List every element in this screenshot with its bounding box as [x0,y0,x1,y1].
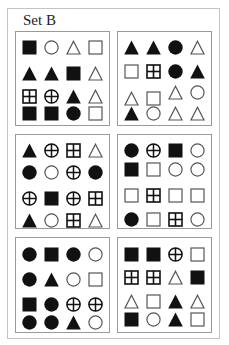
square-with-cross-icon [146,270,161,285]
filled-triangle-icon [168,312,183,327]
open-triangle-icon [66,40,81,55]
filled-square-icon [168,143,183,158]
open-triangle-icon [190,294,205,309]
filled-circle-icon [66,247,81,262]
filled-square-icon [190,270,205,285]
open-circle-icon [66,272,81,287]
open-square-icon [88,272,103,287]
open-triangle-icon [88,213,103,228]
circle-with-cross-icon [66,297,81,312]
circle-with-cross-icon [66,165,81,180]
open-triangle-icon [168,270,183,285]
filled-square-icon [22,297,37,312]
filled-circle-icon [22,247,37,262]
filled-circle-icon [124,143,139,158]
open-triangle-icon [190,106,205,121]
circle-with-cross-icon [66,191,81,206]
filled-circle-icon [168,64,183,79]
panel-2 [117,31,212,126]
open-square-icon [124,64,139,79]
open-triangle-icon [124,294,139,309]
open-square-icon [190,188,205,203]
filled-triangle-icon [66,89,81,104]
filled-square-icon [44,247,59,262]
open-circle-icon [44,165,59,180]
open-triangle-icon [168,85,183,100]
filled-circle-icon [22,272,37,287]
open-square-icon [190,247,205,262]
open-square-icon [190,312,205,327]
square-with-cross-icon [88,191,103,206]
filled-square-icon [146,247,161,262]
open-triangle-icon [190,40,205,55]
filled-triangle-icon [146,40,161,55]
circle-with-cross-icon [146,143,161,158]
filled-triangle-icon [22,143,37,158]
filled-triangle-icon [190,64,205,79]
filled-square-icon [22,106,37,121]
filled-circle-icon [168,40,183,55]
filled-circle-icon [124,212,139,227]
open-triangle-icon [124,91,139,106]
panel-6 [117,237,212,333]
open-circle-icon [88,247,103,262]
filled-square-icon [124,247,139,262]
square-with-cross-icon [168,212,183,227]
open-square-icon [88,40,103,55]
filled-square-icon [44,106,59,121]
circle-with-cross-icon [22,191,37,206]
filled-circle-icon [66,106,81,121]
open-square-icon [146,212,161,227]
filled-triangle-icon [44,66,59,81]
open-triangle-icon [168,106,183,121]
open-circle-icon [146,106,161,121]
circle-with-cross-icon [168,247,183,262]
panel-4 [117,134,212,229]
square-with-cross-icon [22,89,37,104]
open-circle-icon [146,312,161,327]
open-triangle-icon [88,66,103,81]
filled-triangle-icon [44,272,59,287]
filled-triangle-icon [168,294,183,309]
filled-square-icon [66,66,81,81]
filled-triangle-icon [22,66,37,81]
open-triangle-icon [88,143,103,158]
open-circle-icon [44,213,59,228]
open-square-icon [124,188,139,203]
circle-with-cross-icon [44,89,59,104]
filled-triangle-icon [66,315,81,330]
open-square-icon [168,188,183,203]
filled-triangle-icon [22,213,37,228]
panel-3 [15,134,110,229]
open-circle-icon [190,85,205,100]
open-square-icon [146,294,161,309]
filled-square-icon [124,312,139,327]
open-circle-icon [44,40,59,55]
panel-1 [15,31,110,126]
open-circle-icon [190,212,205,227]
square-with-cross-icon [66,143,81,158]
filled-circle-icon [88,165,103,180]
open-square-icon [88,106,103,121]
square-with-cross-icon [146,188,161,203]
filled-square-icon [44,191,59,206]
circle-with-cross-icon [44,143,59,158]
square-with-cross-icon [124,270,139,285]
open-circle-icon [190,162,205,177]
panel-5 [15,237,110,333]
filled-square-icon [124,162,139,177]
circle-with-cross-icon [88,297,103,312]
open-circle-icon [88,315,103,330]
filled-circle-icon [44,315,59,330]
filled-triangle-icon [124,106,139,121]
square-with-cross-icon [66,213,81,228]
figure-title: Set B [23,12,56,29]
square-with-cross-icon [146,64,161,79]
filled-circle-icon [44,297,59,312]
filled-triangle-icon [124,40,139,55]
filled-square-icon [22,40,37,55]
open-circle-icon [168,162,183,177]
open-square-icon [146,162,161,177]
open-triangle-icon [88,89,103,104]
filled-circle-icon [22,165,37,180]
